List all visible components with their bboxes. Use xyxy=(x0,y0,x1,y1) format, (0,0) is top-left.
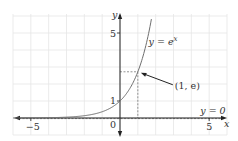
x-tick-label: −5 xyxy=(26,121,40,132)
y-tick-label: 1 xyxy=(110,95,116,106)
asymptote-label: y = 0 xyxy=(199,105,225,116)
series-line-exp xyxy=(13,19,151,118)
series-label-base: y = e xyxy=(148,36,174,47)
series-label: y = ex xyxy=(148,35,178,47)
y-tick-label: 5 xyxy=(110,28,116,39)
annotation-arrowhead-icon xyxy=(141,73,147,77)
series-label-sup: x xyxy=(174,35,178,43)
exponential-chart: x y 0 −5 5 1 5 y = ex y = 0 (1, e) xyxy=(0,0,238,141)
x-tick-label: 5 xyxy=(206,121,212,132)
annotation-arrow-line xyxy=(145,74,173,85)
y-axis-label: y xyxy=(111,9,118,20)
y-axis-arrow-down-icon xyxy=(118,131,122,137)
annotation-label: (1, e) xyxy=(175,80,200,91)
origin-label: 0 xyxy=(110,119,116,130)
x-axis-label: x xyxy=(224,118,230,129)
